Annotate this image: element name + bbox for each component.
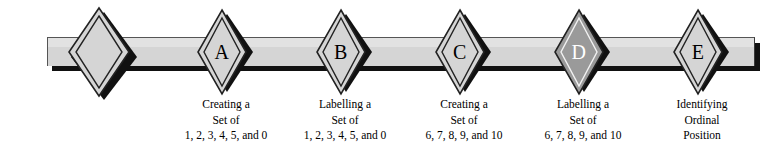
- caption-line: 6, 7, 8, 9, and 10: [426, 128, 503, 144]
- caption-line: Position: [676, 128, 727, 144]
- flow-bar-highlight: [48, 38, 754, 47]
- flow-bar: [47, 37, 755, 66]
- flow-caption-b: Labelling a Set of 1, 2, 3, 4, 5, and 0: [304, 97, 387, 144]
- diamond-icon: A: [196, 7, 256, 97]
- flow-caption-d: Labelling a Set of 6, 7, 8, 9, and 10: [545, 97, 622, 144]
- caption-line: Set of: [426, 113, 503, 129]
- caption-line: 1, 2, 3, 4, 5, and 0: [304, 128, 387, 144]
- caption-line: Set of: [185, 113, 268, 129]
- diamond-icon: E: [672, 7, 732, 97]
- caption-line: Set of: [304, 113, 387, 129]
- flow-caption-a: Creating a Set of 1, 2, 3, 4, 5, and 0: [185, 97, 268, 144]
- flow-bar-stage: A B C: [0, 0, 779, 95]
- caption-line: Ordinal: [676, 113, 727, 129]
- diamond-icon: D: [553, 7, 613, 97]
- caption-line: Creating a: [185, 97, 268, 113]
- flow-caption-e: Identifying Ordinal Position: [676, 97, 727, 144]
- caption-line: Identifying: [676, 97, 727, 113]
- diamond-icon: C: [434, 7, 494, 97]
- caption-line: Set of: [545, 113, 622, 129]
- diamond-icon: B: [315, 7, 375, 97]
- caption-line: 1, 2, 3, 4, 5, and 0: [185, 128, 268, 144]
- process-flow-diagram: A B C: [0, 0, 779, 147]
- diamond-icon: [68, 3, 138, 101]
- caption-line: Creating a: [426, 97, 503, 113]
- caption-line: Labelling a: [304, 97, 387, 113]
- caption-line: Labelling a: [545, 97, 622, 113]
- caption-line: 6, 7, 8, 9, and 10: [545, 128, 622, 144]
- flow-caption-c: Creating a Set of 6, 7, 8, 9, and 10: [426, 97, 503, 144]
